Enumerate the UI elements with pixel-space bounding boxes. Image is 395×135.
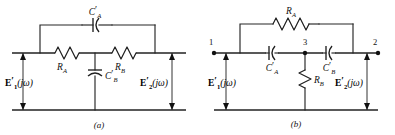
label-voltage-out-a: E′2(jω) [140,76,168,91]
capacitor-ca-b [266,46,278,60]
resistor-rb-b [299,70,311,88]
circuit-diagram-a: C′A RA RB C′B E′1(jω) E′2(jω) (a) [0,0,198,135]
voltage-arrow-out-a [169,53,175,110]
resistor-ra-a [55,47,79,59]
capacitor-ca-a [82,18,112,32]
voltage-arrow-out-b [364,53,370,110]
label-voltage-in-a: E′1(jω) [5,76,33,91]
label-node-1-b: 1 [209,37,213,47]
figure-root: C′A RA RB C′B E′1(jω) E′2(jω) (a) [0,0,395,135]
capacitor-cb-b [323,46,335,60]
label-resistor-rb-a: RB [114,62,125,74]
wire-bridge-left-a [40,25,82,53]
circuit-diagram-b: RA C′A C′B RB 1 3 2 E′1(jω) E′2(jω) (b) [198,0,395,135]
caption-a: (a) [94,120,105,130]
capacitor-cb-a [88,70,102,76]
junction-dot-node3-b [303,51,307,55]
label-resistor-ra-b: RA [285,6,297,18]
terminal-dot-node1-b [212,51,216,55]
label-node-2-b: 2 [373,37,377,47]
label-capacitor-ca-a: C′A [89,5,102,19]
label-resistor-ra-a: RA [56,62,68,74]
resistor-rb-a [112,47,136,59]
label-voltage-out-b: E′2(jω) [335,76,363,91]
label-capacitor-cb-b: C′B [323,61,335,75]
wire-bridge-left-b [240,24,273,53]
caption-b: (b) [291,119,302,129]
label-voltage-in-b: E′1(jω) [208,76,236,91]
label-resistor-rb-b: RB [313,75,324,87]
label-capacitor-ca-b: C′A [266,61,279,75]
terminal-dot-node2-b [376,51,380,55]
resistor-ra-b [273,18,319,30]
label-node-3-b: 3 [303,37,307,47]
